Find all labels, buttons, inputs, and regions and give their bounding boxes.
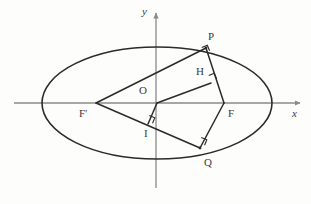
- point-label-focus-left: F′: [79, 108, 88, 119]
- segment-f-prime-to-p: [96, 48, 206, 103]
- chord-segments: [96, 48, 224, 148]
- geometry-diagram: y x P Q F F′ O H I: [0, 0, 311, 204]
- point-label-h: H: [196, 66, 204, 77]
- vertex-dot-q: [199, 147, 202, 150]
- diagram-canvas: [0, 0, 311, 204]
- point-label-i: I: [144, 128, 148, 139]
- axis-label-y: y: [142, 6, 147, 17]
- point-label-origin: O: [139, 85, 147, 96]
- point-label-focus-right: F: [228, 108, 234, 119]
- point-label-p: P: [208, 31, 214, 42]
- segment-o-to-h: [157, 83, 211, 103]
- segment-f-prime-to-q: [96, 103, 200, 148]
- axes: [14, 13, 300, 188]
- point-label-q: Q: [204, 157, 212, 168]
- segment-q-to-f: [200, 103, 224, 148]
- vertex-dot-p: [205, 47, 208, 50]
- vertex-dots: [199, 47, 208, 150]
- axis-label-x: x: [292, 108, 297, 119]
